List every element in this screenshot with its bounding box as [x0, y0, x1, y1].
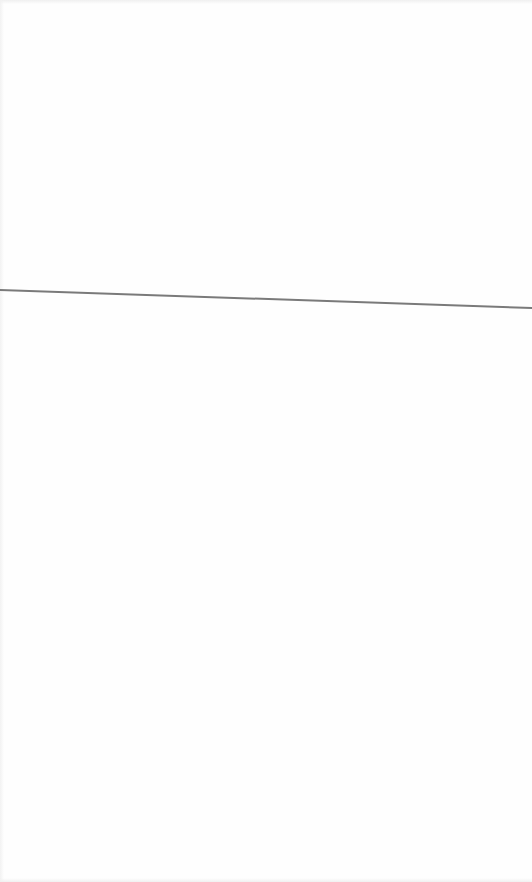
blank-sheet [0, 0, 532, 882]
rule-line-layer [0, 0, 532, 882]
horizontal-rule-line [0, 290, 532, 308]
